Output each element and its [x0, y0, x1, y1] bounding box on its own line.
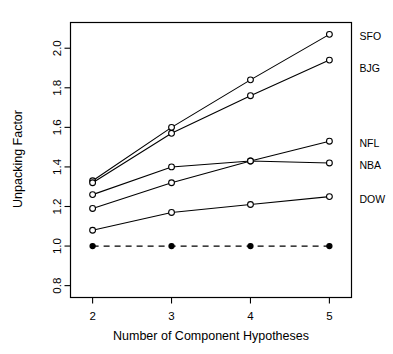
y-tick-label: 0.8: [52, 278, 64, 294]
data-point-NBA: [248, 158, 254, 164]
data-point-NFL: [327, 138, 333, 144]
data-point-NBA: [90, 192, 96, 198]
y-tick-label: 1.8: [52, 80, 64, 96]
data-point-NBA: [327, 160, 333, 166]
data-point-baseline: [327, 243, 332, 248]
data-point-BJG: [327, 57, 333, 63]
data-point-NFL: [90, 206, 96, 212]
series-label-SFO: SFO: [360, 30, 382, 42]
series-label-NBA: NBA: [360, 159, 382, 171]
y-tick-label: 1.6: [52, 119, 64, 135]
data-point-baseline: [248, 243, 253, 248]
y-tick-label: 1.0: [52, 238, 64, 254]
series-lines: [93, 34, 330, 246]
line-chart: 2345 0.81.01.21.41.61.82.0 SFOBJGNFLNBAD…: [0, 0, 393, 354]
data-point-BJG: [169, 130, 175, 136]
data-point-baseline: [169, 243, 174, 248]
x-tick-label: 2: [89, 310, 95, 322]
plot-frame-rect: [71, 23, 352, 298]
plot-frame: [71, 23, 352, 298]
x-tick-label: 4: [247, 310, 254, 322]
data-point-NBA: [169, 164, 175, 170]
data-point-BJG: [90, 180, 96, 186]
y-tick-label: 1.2: [52, 198, 64, 214]
series-line-NBA: [93, 161, 330, 195]
series-line-NFL: [93, 141, 330, 208]
series-labels: SFOBJGNFLNBADOW: [360, 30, 386, 204]
y-tick-label: 1.4: [52, 158, 64, 175]
chart-container: 2345 0.81.01.21.41.61.82.0 SFOBJGNFLNBAD…: [0, 0, 393, 354]
data-point-SFO: [169, 124, 175, 130]
data-point-baseline: [90, 243, 95, 248]
data-point-DOW: [327, 194, 333, 200]
series-line-DOW: [93, 197, 330, 231]
data-point-BJG: [248, 93, 254, 99]
series-line-SFO: [93, 34, 330, 180]
data-point-DOW: [90, 227, 96, 233]
series-label-NFL: NFL: [360, 137, 380, 149]
data-point-DOW: [169, 210, 175, 216]
series-label-BJG: BJG: [360, 62, 380, 74]
x-axis-ticks: 2345: [89, 298, 332, 322]
data-point-NFL: [169, 180, 175, 186]
y-axis-ticks: 0.81.01.21.41.61.82.0: [52, 40, 71, 293]
x-tick-label: 3: [168, 310, 174, 322]
data-point-SFO: [248, 77, 254, 83]
y-axis-title: Unpacking Factor: [11, 110, 25, 208]
x-tick-label: 5: [326, 310, 332, 322]
series-markers: [90, 31, 333, 248]
data-point-SFO: [327, 31, 333, 37]
data-point-DOW: [248, 202, 254, 208]
series-label-DOW: DOW: [360, 193, 386, 205]
y-tick-label: 2.0: [52, 40, 64, 56]
x-axis-title: Number of Component Hypotheses: [113, 329, 309, 343]
